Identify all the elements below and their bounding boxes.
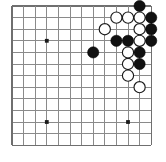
white-stone <box>122 12 133 23</box>
stones-layer <box>88 0 157 92</box>
star-point <box>126 120 130 124</box>
white-stone <box>111 12 122 23</box>
go-board-canvas <box>0 0 166 162</box>
star-point <box>45 39 49 43</box>
black-stone <box>146 35 157 46</box>
white-stone <box>134 12 145 23</box>
black-stone <box>146 24 157 35</box>
black-stone <box>146 12 157 23</box>
star-point <box>45 120 49 124</box>
white-stone <box>122 70 133 81</box>
white-stone <box>122 47 133 58</box>
black-stone <box>134 47 145 58</box>
white-stone <box>122 58 133 69</box>
black-stone <box>122 35 133 46</box>
black-stone <box>134 58 145 69</box>
white-stone <box>134 24 145 35</box>
black-stone <box>134 0 145 11</box>
black-stone <box>88 47 99 58</box>
white-stone <box>134 35 145 46</box>
white-stone <box>134 82 145 93</box>
black-stone <box>111 35 122 46</box>
go-board-diagram <box>0 0 166 162</box>
white-stone <box>99 24 110 35</box>
